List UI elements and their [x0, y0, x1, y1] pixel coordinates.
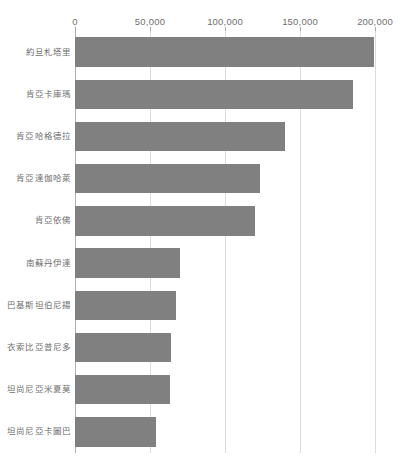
bar	[75, 248, 180, 278]
bar-row	[75, 333, 375, 363]
tickmark-4	[375, 27, 376, 31]
y-tick-label-7: 衣索比亞普尼多	[0, 342, 71, 353]
y-axis-category-labels: 約旦札塔里肯亞卡庫瑪肯亞哈格德拉肯亞達伽哈萊肯亞依佛南蘇丹伊達巴基斯坦伯尼揚衣索…	[0, 31, 71, 453]
x-axis-tick-labels: 050,000100,000150,000200,000	[0, 16, 403, 30]
bar	[75, 122, 285, 152]
bar	[75, 164, 260, 194]
y-tick-label-0: 約旦札塔里	[0, 47, 71, 58]
y-tick-label-5: 南蘇丹伊達	[0, 258, 71, 269]
bar-row	[75, 206, 375, 236]
bar-row	[75, 248, 375, 278]
bars-layer	[75, 31, 375, 453]
bar	[75, 417, 156, 447]
bar	[75, 206, 255, 236]
bar-row	[75, 417, 375, 447]
y-tick-label-9: 坦尚尼亞卡圖巴	[0, 426, 71, 437]
bar	[75, 333, 171, 363]
bar	[75, 375, 170, 405]
y-tick-label-1: 肯亞卡庫瑪	[0, 89, 71, 100]
bar	[75, 80, 353, 110]
y-tick-label-6: 巴基斯坦伯尼揚	[0, 300, 71, 311]
y-tick-label-4: 肯亞依佛	[0, 215, 71, 226]
bar	[75, 291, 176, 321]
gridline-4	[375, 31, 376, 453]
bar-row	[75, 122, 375, 152]
y-tick-label-3: 肯亞達伽哈萊	[0, 173, 71, 184]
bar-row	[75, 164, 375, 194]
bar-row	[75, 291, 375, 321]
plot-area	[75, 31, 375, 453]
bar-row	[75, 80, 375, 110]
bar-chart: 050,000100,000150,000200,000 約旦札塔里肯亞卡庫瑪肯…	[0, 0, 403, 460]
y-tick-label-2: 肯亞哈格德拉	[0, 131, 71, 142]
y-tick-label-8: 坦尚尼亞米夏莫	[0, 384, 71, 395]
bar	[75, 37, 374, 67]
bar-row	[75, 37, 375, 67]
bar-row	[75, 375, 375, 405]
